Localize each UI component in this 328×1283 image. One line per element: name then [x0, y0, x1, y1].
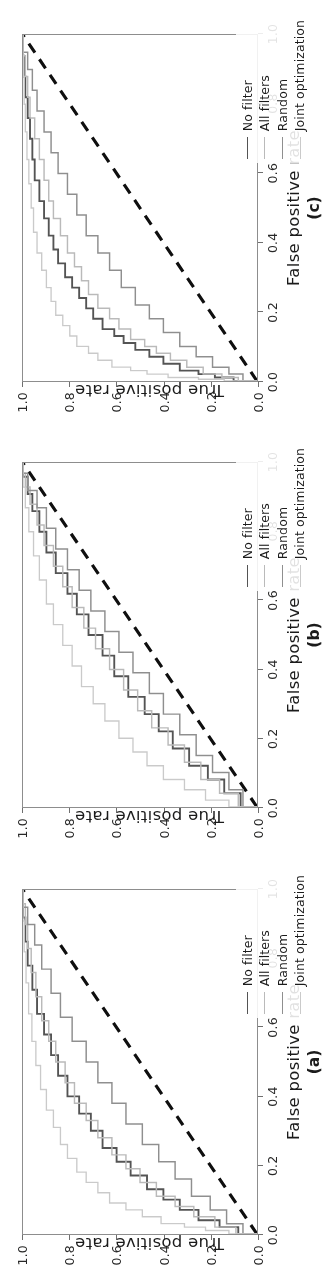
- legend-c: No filter All filters Random Joint optim…: [236, 14, 313, 163]
- panel-a: 0.0 0.2 0.4 0.6 0.8 1.0 0.0 0.2 0.4 0.6 …: [0, 855, 328, 1283]
- plot-frame-b: [22, 462, 258, 808]
- xtick-a-2: [258, 1096, 263, 1097]
- legend-label-no-filter: No filter: [240, 80, 256, 131]
- legend-swatch-joint-optimization: [300, 992, 301, 1014]
- legend-swatch-joint-optimization: [300, 137, 301, 159]
- legend-item-joint-optimization[interactable]: Joint optimization: [292, 20, 308, 159]
- legend-swatch-no-filter: [247, 565, 248, 587]
- legend-item-all-filters[interactable]: All filters: [257, 448, 273, 587]
- xtick-b-2: [258, 669, 263, 670]
- panel-band-b: 0.0 0.2 0.4 0.6 0.8 1.0 0.0 0.2 0.4 0.6 …: [0, 428, 328, 856]
- legend-item-random[interactable]: Random: [275, 448, 291, 587]
- legend-item-no-filter[interactable]: No filter: [240, 20, 256, 159]
- legend-label-joint-optimization: Joint optimization: [292, 20, 308, 131]
- legend-label-joint-optimization: Joint optimization: [292, 448, 308, 559]
- chance-diagonal-c: [23, 35, 257, 381]
- plot-frame-a: [22, 889, 258, 1235]
- plot-svg-b: [23, 463, 257, 807]
- legend-swatch-all-filters: [264, 565, 265, 587]
- ytick-c-5: [22, 382, 23, 387]
- legend-swatch-random: [282, 137, 283, 159]
- legend-swatch-no-filter: [247, 137, 248, 159]
- panel-b: 0.0 0.2 0.4 0.6 0.8 1.0 0.0 0.2 0.4 0.6 …: [0, 428, 328, 856]
- legend-label-random: Random: [275, 934, 291, 986]
- legend-item-random[interactable]: Random: [275, 875, 291, 1014]
- legend-swatch-no-filter: [247, 992, 248, 1014]
- legend-item-all-filters[interactable]: All filters: [257, 875, 273, 1014]
- panel-band-c: 0.0 0.2 0.4 0.6 0.8 1.0 0.0 0.2 0.4 0.6 …: [0, 0, 328, 430]
- xtick-b-3: [258, 599, 263, 600]
- plot-svg-c: [23, 35, 257, 381]
- roc-figure-page: { "figure": { "title": "ROC curves for t…: [0, 0, 328, 1283]
- legend-label-no-filter: No filter: [240, 935, 256, 986]
- xticklabel-a-2: 0.4: [265, 1086, 280, 1106]
- xticklabel-b-1: 0.2: [265, 729, 280, 749]
- y-axis-title-a: True positive rate: [32, 1234, 268, 1253]
- legend-item-joint-optimization[interactable]: Joint optimization: [292, 448, 308, 587]
- plot-frame-c: [22, 34, 258, 382]
- legend-label-random: Random: [275, 79, 291, 131]
- legend-label-all-filters: All filters: [257, 75, 273, 131]
- xtick-c-2: [258, 242, 263, 243]
- legend-b: No filter All filters Random Joint optim…: [236, 442, 313, 591]
- xticklabel-c-1: 0.2: [265, 302, 280, 322]
- xticklabel-c-2: 0.4: [265, 233, 280, 253]
- yticklabel-b-5: 1.0: [15, 818, 30, 848]
- xticklabel-b-3: 0.6: [265, 590, 280, 610]
- legend-label-all-filters: All filters: [257, 503, 273, 559]
- legend-swatch-random: [282, 992, 283, 1014]
- legend-swatch-all-filters: [264, 137, 265, 159]
- legend-swatch-joint-optimization: [300, 565, 301, 587]
- xtick-a-3: [258, 1026, 263, 1027]
- legend-item-all-filters[interactable]: All filters: [257, 20, 273, 159]
- legend-label-random: Random: [275, 507, 291, 559]
- chance-diagonal-b: [23, 463, 257, 807]
- legend-swatch-random: [282, 565, 283, 587]
- panel-band-a: 0.0 0.2 0.4 0.6 0.8 1.0 0.0 0.2 0.4 0.6 …: [0, 855, 328, 1283]
- legend-swatch-all-filters: [264, 992, 265, 1014]
- legend-item-joint-optimization[interactable]: Joint optimization: [292, 875, 308, 1014]
- xtick-c-1: [258, 311, 263, 312]
- legend-item-no-filter[interactable]: No filter: [240, 875, 256, 1014]
- legend-label-joint-optimization: Joint optimization: [292, 875, 308, 986]
- xticklabel-b-2: 0.4: [265, 659, 280, 679]
- xticklabel-a-3: 0.6: [265, 1017, 280, 1037]
- yticklabel-a-5: 1.0: [15, 1245, 30, 1275]
- legend-item-no-filter[interactable]: No filter: [240, 448, 256, 587]
- yticklabel-c-5: 1.0: [15, 392, 30, 422]
- xtick-a-1: [258, 1165, 263, 1166]
- xtick-c-3: [258, 172, 263, 173]
- plot-svg-a: [23, 890, 257, 1234]
- y-axis-title-b: True positive rate: [32, 807, 268, 826]
- xticklabel-c-3: 0.6: [265, 163, 280, 183]
- legend-label-no-filter: No filter: [240, 508, 256, 559]
- y-axis-title-c: True positive rate: [32, 381, 268, 400]
- legend-a: No filter All filters Random Joint optim…: [236, 869, 313, 1018]
- xticklabel-a-1: 0.2: [265, 1156, 280, 1176]
- ytick-b-5: [22, 808, 23, 813]
- legend-item-random[interactable]: Random: [275, 20, 291, 159]
- ytick-a-5: [22, 1235, 23, 1240]
- legend-label-all-filters: All filters: [257, 930, 273, 986]
- xtick-b-1: [258, 738, 263, 739]
- panel-c: 0.0 0.2 0.4 0.6 0.8 1.0 0.0 0.2 0.4 0.6 …: [0, 0, 328, 430]
